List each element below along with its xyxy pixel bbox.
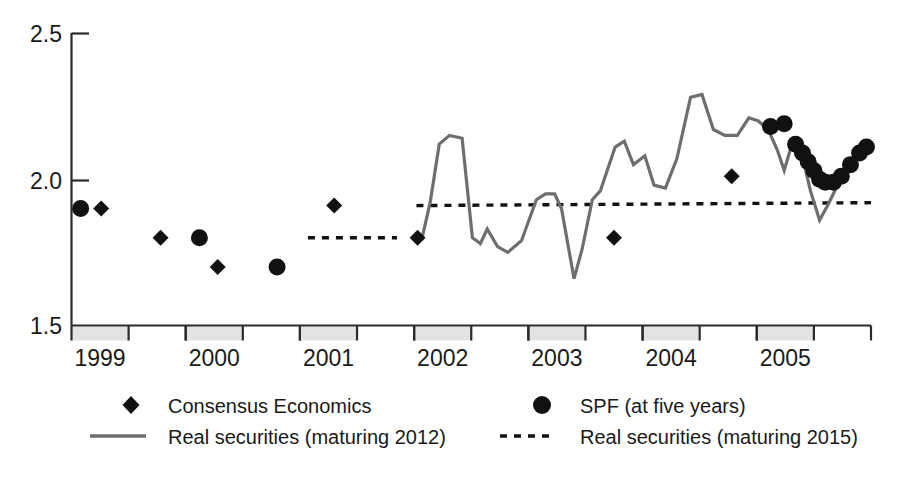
legend-label-real-securities-2015: Real securities (maturing 2015) bbox=[580, 426, 858, 448]
circle-marker-icon bbox=[533, 396, 551, 414]
diamond-marker-icon bbox=[123, 396, 140, 414]
y-axis-tick-labels: 2.5 2.0 1.5 bbox=[30, 21, 62, 339]
data-point-consensus-economics bbox=[93, 201, 109, 217]
chart-svg: 2.5 2.0 1.5 1999200020012002200320042005… bbox=[0, 0, 903, 477]
x-tick-label-1999: 1999 bbox=[74, 345, 125, 371]
x-tick-label-2000: 2000 bbox=[189, 345, 240, 371]
axis-lines bbox=[72, 33, 872, 326]
x-axis-band-2003 bbox=[528, 327, 585, 341]
x-axis-band-1999 bbox=[72, 327, 129, 341]
legend-item-real-securities-2015[interactable]: Real securities (maturing 2015) bbox=[500, 426, 858, 448]
x-tick-label-2004: 2004 bbox=[646, 345, 697, 371]
legend-item-real-securities-2012[interactable]: Real securities (maturing 2012) bbox=[90, 426, 446, 448]
series-real-securities-2012 bbox=[416, 94, 871, 278]
data-point-spf bbox=[191, 229, 208, 246]
x-axis-band-2004 bbox=[643, 327, 700, 341]
data-point-consensus-economics bbox=[326, 198, 342, 214]
data-point-spf bbox=[858, 139, 875, 156]
x-axis-band-2000 bbox=[186, 327, 243, 341]
data-point-spf bbox=[72, 200, 89, 217]
series-spf-five-years bbox=[72, 115, 875, 275]
series-consensus-economics bbox=[93, 168, 739, 275]
data-point-consensus-economics bbox=[210, 259, 226, 275]
x-tick-label-2005: 2005 bbox=[760, 345, 811, 371]
y-tick-label-top: 2.5 bbox=[30, 21, 62, 47]
legend-label-real-securities-2012: Real securities (maturing 2012) bbox=[168, 426, 446, 448]
x-axis-band-2002 bbox=[414, 327, 471, 341]
x-axis-shaded-bands bbox=[72, 327, 814, 341]
x-axis-band-2001 bbox=[300, 327, 357, 341]
x-axis-band-2005 bbox=[757, 327, 814, 341]
data-point-consensus-economics bbox=[153, 230, 169, 246]
y-tick-label-bottom: 1.5 bbox=[30, 313, 62, 339]
y-tick-label-mid: 2.0 bbox=[30, 168, 62, 194]
chart-container: 2.5 2.0 1.5 1999200020012002200320042005… bbox=[0, 0, 903, 477]
legend-label-consensus-economics: Consensus Economics bbox=[168, 395, 371, 417]
data-point-spf bbox=[776, 115, 793, 132]
legend-item-spf-five-years[interactable]: SPF (at five years) bbox=[533, 395, 746, 417]
x-tick-label-2001: 2001 bbox=[303, 345, 354, 371]
x-tick-label-2002: 2002 bbox=[417, 345, 468, 371]
legend-label-spf-five-years: SPF (at five years) bbox=[580, 395, 746, 417]
data-point-consensus-economics bbox=[606, 230, 622, 246]
x-tick-label-2003: 2003 bbox=[531, 345, 582, 371]
x-axis-year-labels: 1999200020012002200320042005 bbox=[74, 345, 810, 371]
legend: Consensus Economics SPF (at five years) … bbox=[90, 395, 858, 448]
line-real-securities-2012 bbox=[416, 94, 871, 278]
dashed-segment-2 bbox=[416, 203, 871, 206]
data-point-consensus-economics bbox=[724, 168, 740, 184]
legend-item-consensus-economics[interactable]: Consensus Economics bbox=[123, 395, 372, 417]
data-point-spf bbox=[269, 259, 286, 276]
